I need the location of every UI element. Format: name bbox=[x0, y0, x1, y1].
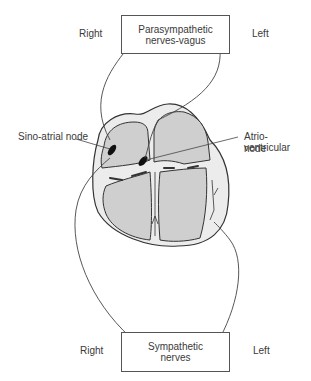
bottom-left-label: Left bbox=[253, 345, 270, 356]
heart-diagram bbox=[0, 0, 311, 381]
parasympathetic-box: Parasympathetic nerves-vagus bbox=[121, 15, 230, 54]
top-right-label: Right bbox=[79, 28, 102, 39]
sympathetic-left-nerve bbox=[214, 222, 239, 338]
top-left-label: Left bbox=[252, 28, 269, 39]
left-ventricle bbox=[159, 168, 207, 241]
parasympathetic-line1: Parasympathetic bbox=[138, 24, 212, 35]
bottom-right-label: Right bbox=[80, 345, 103, 356]
sympathetic-box: Sympathetic nerves bbox=[121, 332, 230, 372]
av-node-label-line2: node bbox=[244, 143, 266, 154]
sympathetic-line1: Sympathetic bbox=[148, 341, 203, 352]
parasympathetic-line2: nerves-vagus bbox=[138, 35, 212, 46]
sympathetic-line2: nerves bbox=[148, 352, 203, 363]
sa-node-label: Sino-atrial node bbox=[18, 131, 88, 142]
